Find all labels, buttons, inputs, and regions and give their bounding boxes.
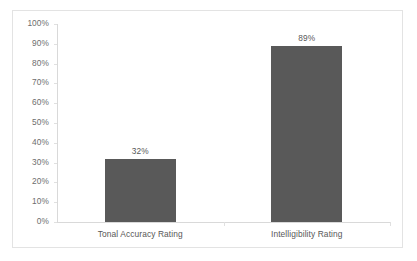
bar[interactable] [105,159,176,222]
x-axis-category-label: Tonal Accuracy Rating [57,229,224,239]
bar-chart: 0%10%20%30%40%50%60%70%80%90%100% 32%Ton… [0,0,417,261]
x-axis-tick-mark [224,222,225,226]
plot-area [57,24,390,222]
x-axis-category-label: Intelligibility Rating [224,229,391,239]
bar-value-label: 89% [251,33,362,43]
x-axis-tick-mark [390,222,391,226]
bar[interactable] [271,46,342,222]
bar-value-label: 32% [85,146,196,156]
